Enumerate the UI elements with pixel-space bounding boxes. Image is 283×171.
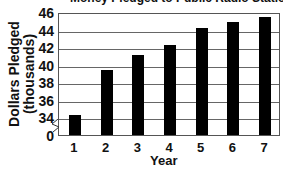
y-tick-label: 42 (38, 41, 54, 55)
y-tick-label: 36 (38, 94, 54, 108)
plot-area (58, 13, 280, 136)
y-tick-label: 46 (38, 6, 54, 20)
bar-year-2 (101, 70, 113, 135)
bar-year-4 (164, 45, 176, 135)
x-tick-label: 1 (64, 140, 84, 155)
axis-break-icon (51, 119, 61, 133)
x-tick-label: 5 (191, 140, 211, 155)
bar-year-5 (196, 28, 208, 135)
x-axis-label: Year (150, 153, 177, 168)
bar-year-3 (132, 55, 144, 135)
x-tick-label: 7 (254, 140, 274, 155)
chart-title: Money Pledged to Public Radio Station (70, 0, 283, 5)
gridline (59, 32, 279, 33)
y-axis-label-line2: (thousands) (22, 21, 37, 127)
x-tick-label: 6 (222, 140, 242, 155)
bar-year-7 (259, 17, 271, 135)
y-tick-label: 44 (38, 24, 54, 38)
x-tick-label: 3 (127, 140, 147, 155)
y-tick-label: 40 (38, 59, 54, 73)
y-axis-label: Dollars Pledged (thousands) (7, 21, 37, 127)
bar-year-6 (227, 22, 239, 135)
bar-year-1 (69, 115, 81, 136)
x-tick-label: 2 (96, 140, 116, 155)
y-axis-label-line1: Dollars Pledged (7, 21, 22, 127)
y-tick-label: 38 (38, 76, 54, 90)
